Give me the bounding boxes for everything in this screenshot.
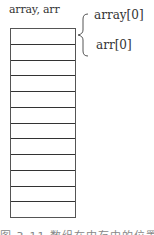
memory-cell bbox=[11, 29, 75, 45]
curly-brace-icon bbox=[77, 13, 89, 57]
memory-cell bbox=[11, 108, 75, 124]
memory-cell bbox=[11, 171, 75, 187]
element-label-array-0: array[0] bbox=[94, 8, 144, 22]
variable-names-label: array, arr bbox=[9, 3, 59, 16]
memory-cells-grid bbox=[10, 28, 76, 218]
element-label-arr-0: arr[0] bbox=[96, 38, 132, 52]
memory-cell bbox=[11, 124, 75, 140]
figure-caption: 图 3-11 数组在内存中的位置 bbox=[0, 227, 154, 235]
memory-cell bbox=[11, 61, 75, 77]
memory-cell bbox=[11, 187, 75, 203]
memory-cell bbox=[11, 155, 75, 171]
memory-cell bbox=[11, 92, 75, 108]
memory-cell bbox=[11, 76, 75, 92]
memory-cell bbox=[11, 139, 75, 155]
memory-cell bbox=[11, 202, 75, 217]
memory-cell bbox=[11, 45, 75, 61]
